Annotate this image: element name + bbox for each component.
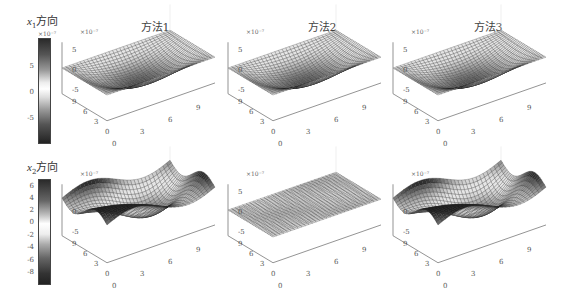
y-tick: 3 xyxy=(260,118,264,126)
x-tick: 3 xyxy=(140,128,144,136)
colorbar-2-tick: -6 xyxy=(20,256,34,264)
surface-plot-2: ×10⁻⁷50-596300369 xyxy=(228,30,398,150)
y-tick: 6 xyxy=(83,108,87,116)
x-tick: 6 xyxy=(168,258,172,266)
y-tick: 3 xyxy=(425,260,429,268)
z-tick: -5 xyxy=(403,86,410,94)
y-tick: 6 xyxy=(414,250,418,258)
y-tick: 0 xyxy=(271,270,275,278)
z-axis-multiplier: ×10⁻⁷ xyxy=(80,170,98,177)
y-tick: 0 xyxy=(271,128,275,136)
x-tick: 0 xyxy=(278,282,282,290)
colorbar-2-tick: 0 xyxy=(20,218,34,226)
y-tick: 6 xyxy=(414,108,418,116)
x-tick: 9 xyxy=(196,246,200,254)
y-tick: 9 xyxy=(403,240,407,248)
y-tick: 0 xyxy=(436,128,440,136)
y-tick: 9 xyxy=(238,98,242,106)
surface-svg xyxy=(62,172,232,292)
colorbar-2-tick: 2 xyxy=(20,206,34,214)
y-tick: 3 xyxy=(94,118,98,126)
row-label-x2: x2方向 xyxy=(27,158,58,176)
z-tick: 0 xyxy=(403,66,407,74)
z-tick: 5 xyxy=(72,46,76,54)
surface-svg xyxy=(393,30,563,150)
z-axis-multiplier: ×10⁻⁷ xyxy=(246,170,264,177)
x-tick: 9 xyxy=(362,246,366,254)
z-axis-multiplier: ×10⁻⁷ xyxy=(80,28,98,35)
row-label-text: 方向 xyxy=(36,161,58,174)
y-tick: 0 xyxy=(105,128,109,136)
x-tick: 9 xyxy=(527,246,531,254)
z-tick: -5 xyxy=(238,228,245,236)
y-tick: 0 xyxy=(436,270,440,278)
colorbar-2-tick: 4 xyxy=(20,194,34,202)
surface-plot-4: ×10⁻⁷50-596300369 xyxy=(62,172,232,292)
colorbar-1-tick: 0 xyxy=(20,88,34,96)
colorbar-2-tick: -2 xyxy=(20,231,34,239)
x-tick: 3 xyxy=(471,128,475,136)
z-tick: 5 xyxy=(238,46,242,54)
z-tick: -5 xyxy=(72,228,79,236)
z-axis-multiplier: ×10⁻⁷ xyxy=(411,28,429,35)
x-tick: 6 xyxy=(499,116,503,124)
x-tick: 9 xyxy=(527,104,531,112)
x-tick: 6 xyxy=(168,116,172,124)
y-tick: 6 xyxy=(249,250,253,258)
y-tick: 9 xyxy=(72,240,76,248)
z-axis-multiplier: ×10⁻⁷ xyxy=(411,170,429,177)
y-tick: 9 xyxy=(238,240,242,248)
row-label-text: 方向 xyxy=(36,15,58,28)
z-tick: 5 xyxy=(72,188,76,196)
z-tick: -5 xyxy=(403,228,410,236)
y-tick: 6 xyxy=(83,250,87,258)
z-tick: 5 xyxy=(403,188,407,196)
z-tick: 0 xyxy=(238,208,242,216)
x-tick: 9 xyxy=(362,104,366,112)
x-tick: 0 xyxy=(443,140,447,148)
z-tick: 5 xyxy=(403,46,407,54)
surface-svg xyxy=(228,172,398,292)
z-tick: 5 xyxy=(238,188,242,196)
y-tick: 9 xyxy=(72,98,76,106)
y-tick: 0 xyxy=(105,270,109,278)
colorbar-1-multiplier: ×10⁻⁷ xyxy=(38,30,56,37)
surface-plot-3: ×10⁻⁷50-596300369 xyxy=(393,30,563,150)
y-tick: 9 xyxy=(403,98,407,106)
surface-svg xyxy=(393,172,563,292)
y-tick: 3 xyxy=(94,260,98,268)
colorbar-2-tick: -4 xyxy=(20,243,34,251)
colorbar-2-tick: 6 xyxy=(20,182,34,190)
row-label-x1: x1方向 xyxy=(27,12,58,30)
y-tick: 3 xyxy=(260,260,264,268)
y-tick: 3 xyxy=(425,118,429,126)
colorbar-2 xyxy=(38,179,51,285)
x-tick: 3 xyxy=(306,128,310,136)
surface-svg xyxy=(228,30,398,150)
colorbar-1-tick: -5 xyxy=(20,114,34,122)
x-tick: 3 xyxy=(471,270,475,278)
colorbar-1 xyxy=(38,38,51,144)
surface-svg xyxy=(62,30,232,150)
z-tick: 0 xyxy=(238,66,242,74)
x-tick: 0 xyxy=(112,282,116,290)
z-tick: 0 xyxy=(72,208,76,216)
x-tick: 0 xyxy=(278,140,282,148)
surface-plot-6: ×10⁻⁷50-596300369 xyxy=(393,172,563,292)
z-axis-multiplier: ×10⁻⁷ xyxy=(246,28,264,35)
x-tick: 0 xyxy=(443,282,447,290)
z-tick: 0 xyxy=(72,66,76,74)
x-tick: 6 xyxy=(334,116,338,124)
z-tick: -5 xyxy=(72,86,79,94)
x-tick: 3 xyxy=(140,270,144,278)
colorbar-1-tick: 5 xyxy=(20,62,34,70)
surface-plot-1: ×10⁻⁷50-596300369 xyxy=(62,30,232,150)
colorbar-2-tick: -8 xyxy=(20,268,34,276)
surface-plot-5: ×10⁻⁷50-596300369 xyxy=(228,172,398,292)
x-tick: 9 xyxy=(196,104,200,112)
y-tick: 6 xyxy=(249,108,253,116)
z-tick: -5 xyxy=(238,86,245,94)
x-tick: 6 xyxy=(334,258,338,266)
x-tick: 3 xyxy=(306,270,310,278)
x-tick: 6 xyxy=(499,258,503,266)
